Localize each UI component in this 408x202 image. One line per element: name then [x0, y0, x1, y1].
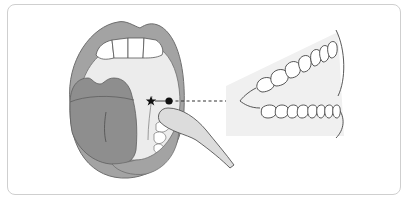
- dental-arch-side-view: [226, 30, 344, 138]
- swab-point-dot: [165, 97, 172, 104]
- lower-teeth-row: [261, 105, 340, 118]
- mouth-swab-diagram: [0, 0, 408, 202]
